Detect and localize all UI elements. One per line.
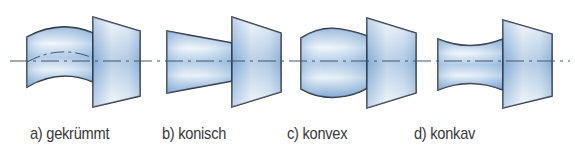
panel-c-convex bbox=[301, 18, 416, 108]
label-a-gekruemmt: a) gekrümmt bbox=[30, 124, 109, 144]
label-b-konisch: b) konisch bbox=[162, 124, 226, 144]
panel-d-concave bbox=[438, 20, 552, 108]
label-d-konkav: d) konkav bbox=[414, 124, 475, 144]
panel-a-curved bbox=[27, 17, 140, 107]
label-c-konvex: c) konvex bbox=[287, 124, 347, 144]
panel-b-conical bbox=[167, 17, 281, 107]
